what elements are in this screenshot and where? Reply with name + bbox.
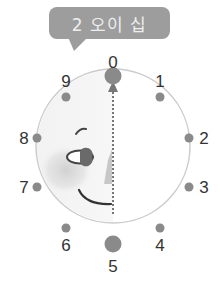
label-9: 9 xyxy=(58,73,74,90)
label-2: 2 xyxy=(196,130,212,147)
dot-6 xyxy=(62,224,71,233)
dot-8 xyxy=(33,134,42,143)
label-1: 1 xyxy=(152,73,168,90)
label-8: 8 xyxy=(16,130,32,147)
label-0: 0 xyxy=(105,54,121,71)
dot-5 xyxy=(105,236,122,253)
dial-diagram xyxy=(0,0,220,291)
label-5: 5 xyxy=(105,258,121,275)
dot-1 xyxy=(156,93,165,102)
label-6: 6 xyxy=(58,237,74,254)
label-3: 3 xyxy=(196,179,212,196)
dot-4 xyxy=(156,224,165,233)
label-4: 4 xyxy=(152,237,168,254)
dot-7 xyxy=(33,183,42,192)
dot-9 xyxy=(62,93,71,102)
dot-2 xyxy=(185,134,194,143)
dot-3 xyxy=(185,183,194,192)
label-7: 7 xyxy=(16,179,32,196)
